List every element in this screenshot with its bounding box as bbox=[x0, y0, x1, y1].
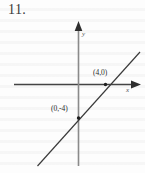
y-axis bbox=[75, 21, 83, 166]
y-axis-label: y bbox=[82, 30, 85, 38]
worksheet-problem-figure: 11. y x (4,0) (0,-4) bbox=[0, 0, 145, 173]
x-axis-label: x bbox=[126, 86, 129, 94]
x-intercept-label: (4,0) bbox=[93, 68, 107, 77]
coordinate-plane-graph bbox=[0, 0, 145, 173]
x-axis bbox=[14, 81, 141, 89]
y-intercept-point bbox=[77, 116, 80, 119]
y-intercept-label: (0,-4) bbox=[51, 104, 68, 113]
x-intercept-point bbox=[104, 83, 107, 86]
